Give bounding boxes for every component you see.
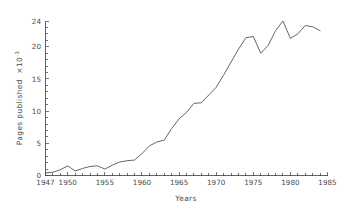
x-tick-label-1955: 1955	[96, 178, 114, 187]
x-tick-label-1960: 1960	[133, 178, 152, 187]
chart-figure: 0510152024 19471950195519601965197019751…	[0, 0, 345, 216]
y-axis-title-group: Pages published ×10-3	[14, 51, 24, 145]
x-axis-tick-labels: 194719501955196019651970197519801985	[36, 178, 336, 187]
line-chart: 0510152024 19471950195519601965197019751…	[0, 0, 345, 216]
y-tick-label-5: 5	[36, 139, 41, 148]
x-tick-label-1965: 1965	[170, 178, 188, 187]
y-tick-label-20: 20	[32, 42, 42, 51]
y-tick-label-24: 24	[32, 17, 42, 26]
chart-axes	[46, 21, 328, 176]
x-axis-ticks	[46, 172, 328, 176]
x-axis-title: Years	[174, 194, 197, 203]
x-tick-label-1947: 1947	[36, 178, 54, 187]
x-tick-label-1970: 1970	[207, 178, 226, 187]
data-series-line	[46, 21, 321, 173]
x-tick-label-1950: 1950	[59, 178, 78, 187]
y-axis-title: Pages published ×10-3	[14, 51, 24, 145]
y-axis-ticks	[46, 21, 50, 176]
x-tick-label-1980: 1980	[281, 178, 300, 187]
y-axis-tick-labels: 0510152024	[32, 17, 42, 181]
x-tick-label-1975: 1975	[244, 178, 262, 187]
y-tick-label-15: 15	[32, 75, 41, 84]
x-tick-label-1985: 1985	[318, 178, 336, 187]
y-tick-label-10: 10	[32, 107, 42, 116]
